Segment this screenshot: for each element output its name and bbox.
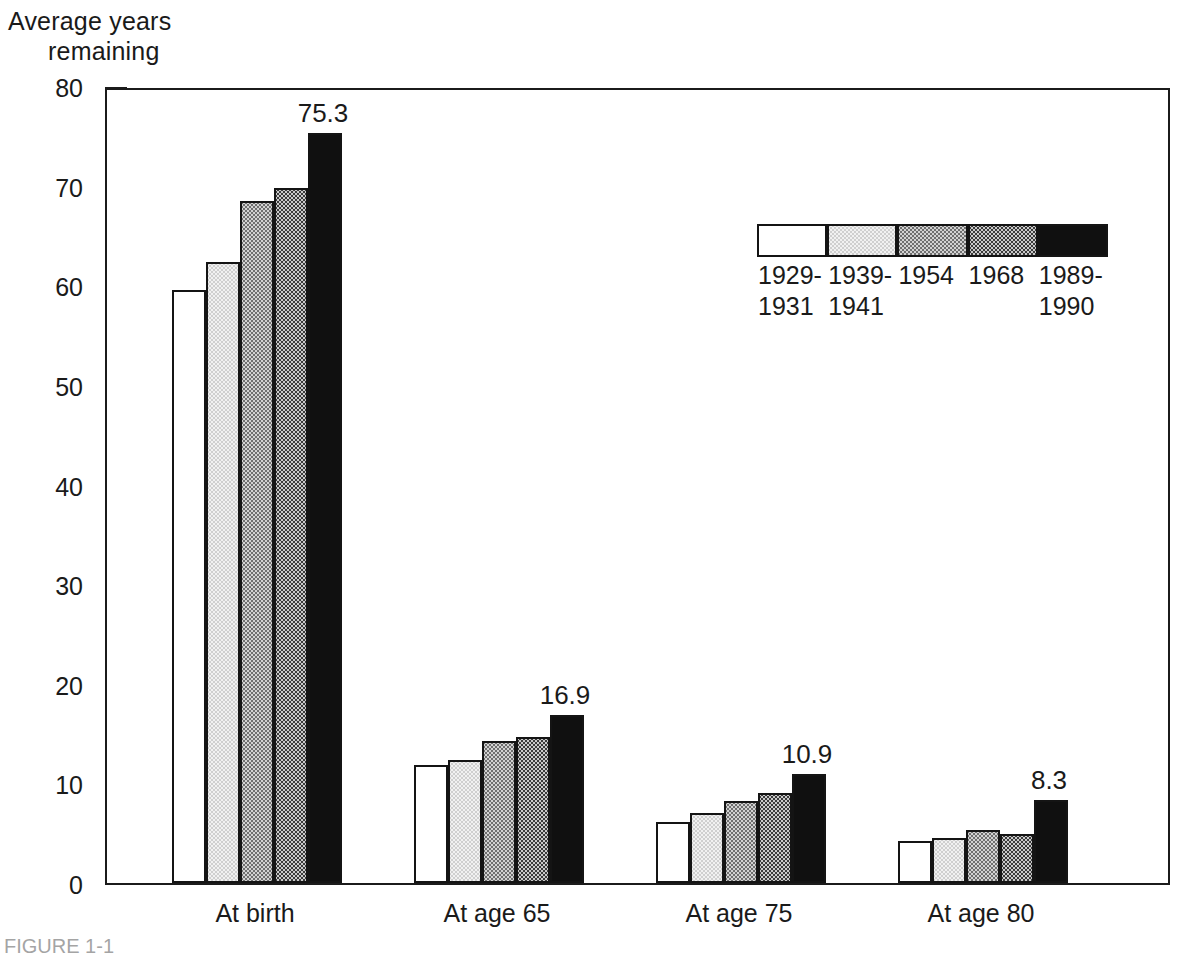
legend-label-line1: 1989- [1039,261,1103,289]
value-label-at-birth: 75.3 [278,98,368,128]
legend-label-line1: 1954 [898,261,954,289]
bar-at-birth-1989-1990 [308,133,342,883]
chart-canvas: Average years remaining 0102030405060708… [0,0,1191,953]
legend: 1929-19311939-1941195419681989-1990 [757,224,1177,327]
bar-at-age-65-1968 [516,737,550,883]
bar-at-age-80-1939-1941 [932,838,966,883]
bar-at-birth-1929-1931 [172,290,206,883]
value-label-at-age-75: 10.9 [762,739,852,769]
legend-swatch-1939-1941 [827,224,897,257]
legend-label-line1: 1929- [758,261,822,289]
figure-caption: FIGURE 1-1 [4,934,114,953]
bar-at-birth-1939-1941 [206,262,240,883]
y-axis-tick-label: 20 [55,671,83,701]
x-axis-label-at-age-65: At age 65 [387,898,607,928]
bar-at-age-80-1989-1990 [1034,800,1068,883]
bar-at-age-65-1929-1931 [414,765,448,883]
y-axis-tick-label: 40 [55,472,83,502]
bar-at-age-80-1929-1931 [898,841,932,883]
value-label-at-age-65: 16.9 [520,680,610,710]
legend-labels: 1929-19311939-1941195419681989-1990 [757,257,1177,327]
y-axis-title-line1: Average years [6,6,306,36]
bar-at-age-65-1939-1941 [448,760,482,883]
legend-swatch-1989-1990 [1038,224,1108,257]
x-axis-label-at-age-80: At age 80 [871,898,1091,928]
legend-swatch-1929-1931 [757,224,827,257]
legend-swatch-1954 [897,224,967,257]
bar-at-age-75-1954 [724,801,758,883]
bar-at-age-80-1954 [966,830,1000,883]
bar-at-age-75-1968 [758,793,792,883]
x-axis-label-at-birth: At birth [145,898,365,928]
bar-at-age-75-1929-1931 [656,822,690,883]
x-axis-label-at-age-75: At age 75 [629,898,849,928]
y-axis-tick-label: 10 [55,770,83,800]
y-axis-tick-label: 50 [55,372,83,402]
bar-at-birth-1968 [274,188,308,883]
y-axis-tick-label: 80 [55,73,83,103]
legend-label-1989-1990: 1989-1990 [1039,260,1103,322]
legend-label-1954: 1954 [898,260,954,291]
y-axis-tick-label: 60 [55,272,83,302]
legend-label-line1: 1939- [828,261,892,289]
bar-at-age-75-1939-1941 [690,813,724,883]
bar-at-age-65-1989-1990 [550,715,584,883]
legend-swatches [757,224,1108,257]
legend-label-1968: 1968 [969,260,1025,291]
value-label-at-age-80: 8.3 [1004,765,1094,795]
legend-label-1939-1941: 1939-1941 [828,260,892,322]
bar-at-birth-1954 [240,201,274,883]
y-axis-title: Average years remaining [6,6,306,66]
legend-label-line2: 1931 [758,291,822,322]
y-axis-tick-label: 70 [55,173,83,203]
bar-at-age-80-1968 [1000,834,1034,883]
y-axis-title-line2: remaining [6,36,306,66]
legend-label-line1: 1968 [969,261,1025,289]
bar-at-age-65-1954 [482,741,516,883]
bar-at-age-75-1989-1990 [792,774,826,883]
legend-label-line2: 1990 [1039,291,1103,322]
y-axis-tick-label: 0 [69,870,83,900]
legend-swatch-1968 [968,224,1038,257]
legend-label-line2: 1941 [828,291,892,322]
y-axis-tick-label: 30 [55,571,83,601]
legend-label-1929-1931: 1929-1931 [758,260,822,322]
